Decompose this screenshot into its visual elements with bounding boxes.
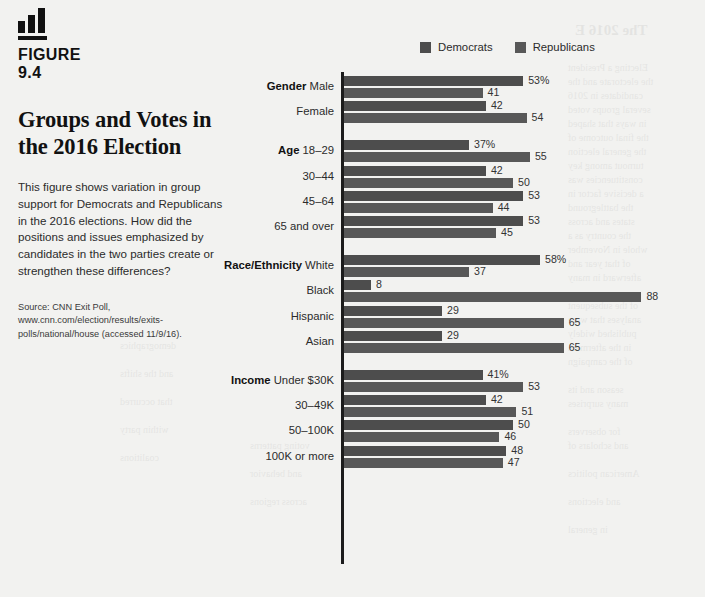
chart-category-label: Female <box>296 105 334 117</box>
chart-row-label: 45–64 <box>303 195 334 207</box>
bar-republicans <box>344 203 493 213</box>
chart-row: 30–49K4251 <box>0 395 705 417</box>
chart-row: Income Under $30K41%53 <box>0 370 705 392</box>
chart-group-label: Race/Ethnicity <box>224 259 302 271</box>
figure-page: FIGURE 9.4 Groups and Votes in the 2016 … <box>0 0 705 597</box>
chart-row: Asian2965 <box>0 331 705 353</box>
bar-value-label: 58% <box>545 253 566 265</box>
chart-category-label: Hispanic <box>291 310 334 322</box>
bar-value-label: 50 <box>518 176 530 188</box>
chart-group-label: Income <box>231 374 271 386</box>
bar-republicans <box>344 432 499 442</box>
bar-value-label: 48 <box>511 444 523 456</box>
bar-value-label: 53 <box>528 380 540 392</box>
bar-value-label: 37 <box>474 265 486 277</box>
chart-group-label: Age <box>278 144 299 156</box>
chart-category-label: 50–100K <box>289 424 334 436</box>
chart-row-label: 30–44 <box>303 170 334 182</box>
chart-row-label: Female <box>296 105 334 117</box>
bar-republicans <box>344 318 564 328</box>
chart-row: Hispanic2965 <box>0 306 705 328</box>
chart-row: Race/Ethnicity White58%37 <box>0 255 705 277</box>
bar-democrats <box>344 280 371 290</box>
chart-row-label: 65 and over <box>274 220 334 232</box>
chart-category-label: 45–64 <box>303 195 334 207</box>
bar-democrats <box>344 446 506 456</box>
chart-row-label: Asian <box>306 335 334 347</box>
bar-value-label: 47 <box>508 456 520 468</box>
bar-republicans <box>344 228 496 238</box>
chart-category-label: White <box>305 259 334 271</box>
bar-value-label: 44 <box>498 201 510 213</box>
bar-value-label: 45 <box>501 226 513 238</box>
bar-democrats <box>344 216 523 226</box>
bar-democrats <box>344 166 486 176</box>
bar-value-label: 41 <box>488 86 500 98</box>
bar-value-label: 65 <box>569 316 581 328</box>
bar-value-label: 37% <box>474 138 495 150</box>
chart-row-label: 50–100K <box>289 424 334 436</box>
chart-row: 30–444250 <box>0 166 705 188</box>
chart-row: 65 and over5345 <box>0 216 705 238</box>
bar-value-label: 29 <box>447 329 459 341</box>
chart-category-label: Asian <box>306 335 334 347</box>
bar-value-label: 55 <box>535 150 547 162</box>
bar-value-label: 53 <box>528 189 540 201</box>
bar-democrats <box>344 101 486 111</box>
bar-value-label: 53% <box>528 74 549 86</box>
bar-democrats <box>344 420 513 430</box>
bar-republicans <box>344 458 503 468</box>
bar-value-label: 42 <box>491 164 503 176</box>
chart-row-label: 100K or more <box>266 450 334 462</box>
bar-republicans <box>344 407 516 417</box>
bar-value-label: 8 <box>376 278 382 290</box>
bar-value-label: 65 <box>569 341 581 353</box>
chart-row: Black888 <box>0 280 705 302</box>
chart-row-label: Race/Ethnicity White <box>224 259 334 271</box>
chart-row: Age 18–2937%55 <box>0 140 705 162</box>
bar-democrats <box>344 255 540 265</box>
chart-row: Gender Male53%41 <box>0 76 705 98</box>
chart-category-label: 18–29 <box>303 144 334 156</box>
bar-republicans <box>344 343 564 353</box>
bar-democrats <box>344 331 442 341</box>
bar-value-label: 42 <box>491 393 503 405</box>
bar-value-label: 41% <box>488 368 509 380</box>
chart-row: Female4254 <box>0 101 705 123</box>
chart-row: 45–645344 <box>0 191 705 213</box>
chart-row-label: Age 18–29 <box>278 144 334 156</box>
bar-chart: Gender Male53%41Female4254Age 18–2937%55… <box>0 0 705 597</box>
bar-republicans <box>344 267 469 277</box>
chart-category-label: Male <box>310 80 335 92</box>
bar-value-label: 54 <box>532 111 544 123</box>
chart-row-label: Hispanic <box>291 310 334 322</box>
bar-democrats <box>344 370 483 380</box>
bar-republicans <box>344 152 530 162</box>
chart-row-label: Black <box>306 284 334 296</box>
bar-republicans <box>344 292 641 302</box>
chart-group-label: Gender <box>267 80 307 92</box>
chart-category-label: Black <box>306 284 334 296</box>
bar-democrats <box>344 191 523 201</box>
chart-row-label: Income Under $30K <box>231 374 334 386</box>
bar-value-label: 53 <box>528 214 540 226</box>
bar-value-label: 51 <box>521 405 533 417</box>
chart-row: 100K or more4847 <box>0 446 705 468</box>
bar-republicans <box>344 113 527 123</box>
chart-category-label: Under $30K <box>274 374 334 386</box>
chart-row-label: Gender Male <box>267 80 334 92</box>
bar-republicans <box>344 382 523 392</box>
bar-value-label: 46 <box>504 430 516 442</box>
bar-republicans <box>344 178 513 188</box>
chart-category-label: 65 and over <box>274 220 334 232</box>
bar-democrats <box>344 76 523 86</box>
chart-row-label: 30–49K <box>295 399 334 411</box>
bar-republicans <box>344 88 483 98</box>
bar-democrats <box>344 140 469 150</box>
chart-row: 50–100K5046 <box>0 420 705 442</box>
bar-value-label: 88 <box>646 290 658 302</box>
bar-democrats <box>344 395 486 405</box>
chart-category-label: 30–44 <box>303 170 334 182</box>
bar-value-label: 29 <box>447 304 459 316</box>
chart-category-label: 30–49K <box>295 399 334 411</box>
